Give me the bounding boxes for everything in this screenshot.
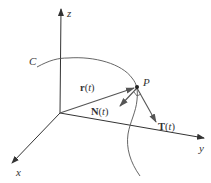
z-axis: [60, 9, 61, 113]
z-axis-label: z: [66, 7, 72, 19]
x-axis-label: x: [15, 166, 21, 178]
tnb-frame-diagram: z y x C P r(t) N(t) T(t): [0, 0, 211, 183]
point-p-label: P: [142, 76, 150, 88]
tangent-vector-t: [137, 88, 156, 122]
y-axis: [60, 113, 204, 138]
position-vector-label: r(t): [80, 82, 95, 94]
curve-c: C: [29, 55, 140, 176]
axes: z y x: [12, 7, 204, 178]
curve-path: [37, 58, 140, 176]
y-axis-label: y: [198, 142, 204, 154]
curve-label: C: [29, 55, 37, 67]
normal-vector-n: [120, 88, 137, 106]
normal-vector-label: N(t): [91, 106, 109, 118]
tangent-vector-label: T(t): [158, 121, 175, 133]
point-p: P: [135, 76, 150, 89]
x-axis: [12, 113, 60, 163]
point-p-dot: [135, 85, 139, 89]
